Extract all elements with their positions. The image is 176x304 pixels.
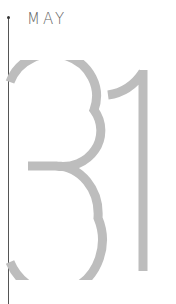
digit-1 bbox=[108, 70, 143, 271]
timeline-dot bbox=[7, 16, 10, 19]
day-number: 31 bbox=[0, 60, 176, 280]
month-label: MAY bbox=[27, 10, 67, 28]
digit-3 bbox=[10, 60, 102, 280]
